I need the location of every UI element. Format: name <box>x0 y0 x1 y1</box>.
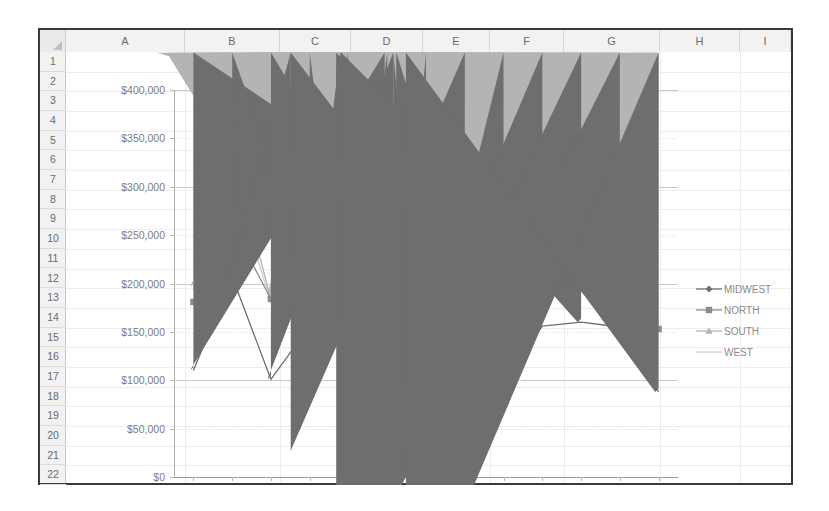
row-header-13[interactable]: 13 <box>40 288 66 308</box>
row-header-16[interactable]: 16 <box>40 347 66 367</box>
x-axis-tick-label: P04 <box>302 484 320 485</box>
legend-label[interactable]: NORTH <box>724 305 759 316</box>
row-header-17[interactable]: 17 <box>40 367 66 387</box>
legend-label[interactable]: WEST <box>724 347 753 358</box>
y-axis-tick-label: $200,000 <box>121 278 165 290</box>
screenshot-root: ABCDEFGHI 123456789101112131415161718192… <box>0 0 829 511</box>
row-header-1[interactable]: 1 <box>40 52 66 72</box>
row-header-column: 12345678910111213141516171819202122 <box>40 52 66 483</box>
y-axis-tick-label: $300,000 <box>121 181 165 193</box>
y-axis-tick-label: $0 <box>153 471 165 483</box>
y-axis-tick-label: $150,000 <box>121 326 165 338</box>
row-header-11[interactable]: 11 <box>40 249 66 269</box>
spreadsheet-frame: ABCDEFGHI 123456789101112131415161718192… <box>38 28 793 485</box>
row-header-18[interactable]: 18 <box>40 387 66 407</box>
y-axis-tick-label: $50,000 <box>127 423 165 435</box>
line-chart[interactable]: $0$50,000$100,000$150,000$200,000$250,00… <box>66 52 795 485</box>
row-header-4[interactable]: 4 <box>40 111 66 131</box>
column-header-h[interactable]: H <box>660 30 740 52</box>
legend-label[interactable]: SOUTH <box>724 326 759 337</box>
x-axis-tick-label: P02 <box>224 484 242 485</box>
row-header-2[interactable]: 2 <box>40 72 66 92</box>
y-axis-tick-label: $350,000 <box>121 132 165 144</box>
column-header-f[interactable]: F <box>490 30 564 52</box>
row-header-7[interactable]: 7 <box>40 170 66 190</box>
column-header-e[interactable]: E <box>423 30 490 52</box>
y-axis-tick-label: $250,000 <box>121 229 165 241</box>
x-axis-tick-label: P10 <box>534 484 552 485</box>
row-header-12[interactable]: 12 <box>40 269 66 289</box>
row-header-10[interactable]: 10 <box>40 229 66 249</box>
column-header-i[interactable]: I <box>740 30 791 52</box>
y-axis-tick-label: $100,000 <box>121 374 165 386</box>
row-header-8[interactable]: 8 <box>40 190 66 210</box>
column-header-row: ABCDEFGHI <box>40 30 791 52</box>
row-header-19[interactable]: 19 <box>40 406 66 426</box>
row-header-14[interactable]: 14 <box>40 308 66 328</box>
row-header-6[interactable]: 6 <box>40 150 66 170</box>
x-axis-tick-label: P03 <box>263 484 281 485</box>
column-header-c[interactable]: C <box>280 30 351 52</box>
column-header-a[interactable]: A <box>66 30 185 52</box>
row-header-5[interactable]: 5 <box>40 131 66 151</box>
x-axis-tick-label: P13 <box>651 484 669 485</box>
x-axis-tick-label: P09 <box>496 484 514 485</box>
select-all-triangle-icon <box>53 41 62 50</box>
row-header-20[interactable]: 20 <box>40 426 66 446</box>
select-all-corner[interactable] <box>40 30 66 52</box>
column-header-d[interactable]: D <box>351 30 423 52</box>
row-header-15[interactable]: 15 <box>40 328 66 348</box>
x-axis-tick-label: P11 <box>573 484 590 485</box>
row-header-9[interactable]: 9 <box>40 209 66 229</box>
row-header-22[interactable]: 22 <box>40 465 66 485</box>
row-header-21[interactable]: 21 <box>40 446 66 466</box>
column-header-g[interactable]: G <box>564 30 660 52</box>
y-axis-tick-label: $400,000 <box>121 84 165 96</box>
x-axis-tick-label: P12 <box>612 484 630 485</box>
x-axis-tick-label: P01 <box>185 484 203 485</box>
column-header-b[interactable]: B <box>185 30 280 52</box>
row-header-3[interactable]: 3 <box>40 91 66 111</box>
legend-label[interactable]: MIDWEST <box>724 284 771 295</box>
